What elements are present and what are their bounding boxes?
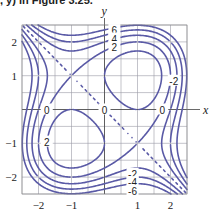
y-tick-label: 2 [12, 36, 18, 48]
y-tick-label: 1 [12, 70, 18, 82]
contour-plot: xy−2−112−2−112642-20002-2-4-6 [0, 0, 210, 214]
x-axis-label: x [202, 103, 209, 117]
contour-label: 2 [112, 42, 118, 53]
x-tick-label: −2 [33, 199, 45, 211]
y-tick-label: −2 [5, 171, 17, 183]
y-tick-label: −1 [5, 137, 17, 149]
x-tick-label: −1 [66, 199, 78, 211]
contour-label: 0 [44, 105, 50, 116]
x-tick-label: 1 [135, 199, 141, 211]
contour-label: -2 [169, 76, 178, 87]
contour-label: 0 [102, 105, 108, 116]
contour-label: 0 [159, 105, 165, 116]
y-axis-label: y [101, 4, 108, 18]
contour-label: -6 [128, 186, 137, 197]
x-tick-label: 2 [168, 199, 174, 211]
contour-label: 2 [44, 137, 50, 148]
